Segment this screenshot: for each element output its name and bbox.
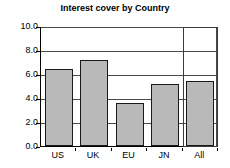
bar-all [186,81,214,146]
y-tick-label-2.0: 2.0 [2,118,38,127]
chart-title: Interest cover by Country [0,2,230,14]
bar-chart: Interest cover by Country 10.08.06.04.02… [0,0,230,168]
bar-us [45,69,73,146]
y-tick-label-10.0: 10.0 [2,22,38,31]
bar-eu [116,103,144,146]
x-tick-label-us: US [40,150,75,161]
x-axis: USUKEUJNAll [40,150,217,166]
x-tick-label-eu: EU [111,150,146,161]
plot-area [40,27,217,147]
x-tick-label-all: All [182,150,217,161]
y-tick-label-8.0: 8.0 [2,46,38,55]
bar-uk [80,60,108,146]
x-tick-mark-5 [217,148,218,151]
y-axis: 10.08.06.04.02.00.0 [0,27,38,147]
bars-layer [41,27,217,146]
x-tick-label-jn: JN [146,150,181,161]
y-tick-label-6.0: 6.0 [2,70,38,79]
bar-jn [151,84,179,146]
x-tick-label-uk: UK [75,150,110,161]
y-tick-label-0.0: 0.0 [2,142,38,151]
y-tick-label-4.0: 4.0 [2,94,38,103]
